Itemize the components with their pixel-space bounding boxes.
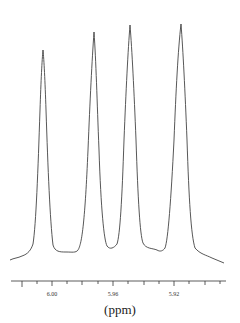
tick-label-6-00: 6.00: [47, 291, 58, 297]
spectrum-trace: [10, 24, 224, 263]
x-axis-ticks: [22, 281, 220, 287]
tick-label-5-92: 5.92: [169, 291, 180, 297]
nmr-spectrum-chart: 6.00 5.96 5.92 (ppm): [0, 0, 240, 323]
tick-label-5-96: 5.96: [108, 291, 119, 297]
x-axis-title: (ppm): [104, 302, 136, 317]
